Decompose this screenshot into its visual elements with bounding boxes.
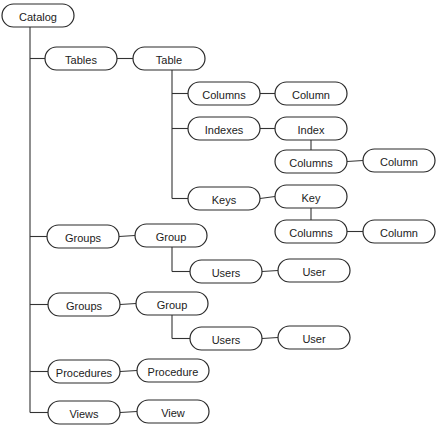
node-label: Procedures (56, 367, 113, 379)
node-label: Indexes (205, 124, 244, 136)
node-view: View (137, 400, 209, 423)
node-label: Group (157, 299, 188, 311)
node-index: Index (275, 117, 347, 140)
node-user1: User (278, 259, 350, 282)
node-procedures: Procedures (48, 360, 120, 383)
node-label: Keys (212, 194, 237, 206)
node-keys: Keys (188, 187, 260, 210)
node-tables: Tables (45, 47, 117, 70)
node-label: Columns (202, 89, 246, 101)
node-i-column: Column (363, 149, 435, 172)
node-label: Users (212, 267, 241, 279)
node-catalog: Catalog (2, 4, 74, 27)
node-table: Table (133, 47, 205, 70)
edge-groups1-group1 (119, 236, 135, 237)
node-users1: Users (190, 260, 262, 283)
node-label: Group (156, 231, 187, 243)
node-label: Views (69, 408, 99, 420)
node-label: Groups (66, 300, 103, 312)
node-k-columns: Columns (275, 220, 347, 243)
node-label: View (161, 407, 185, 419)
node-k-column: Column (363, 220, 435, 243)
node-group1: Group (135, 224, 207, 247)
edge-users2-user2 (262, 338, 278, 339)
node-label: Tables (65, 54, 97, 66)
node-label: Key (302, 192, 321, 204)
node-key: Key (275, 185, 347, 208)
node-label: Column (380, 156, 418, 168)
node-indexes: Indexes (188, 117, 260, 140)
catalog-tree-diagram: CatalogTablesTableColumnsColumnIndexesIn… (0, 0, 444, 429)
node-label: Table (156, 54, 182, 66)
node-label: Users (212, 334, 241, 346)
node-t-column: Column (275, 82, 347, 105)
node-views: Views (48, 401, 120, 424)
edge-groups2-group2 (120, 304, 136, 305)
node-groups1: Groups (47, 225, 119, 248)
edge-keys-key (260, 197, 275, 199)
node-procedure: Procedure (137, 359, 209, 382)
node-label: User (302, 266, 326, 278)
node-i-columns: Columns (275, 150, 347, 173)
node-label: Column (380, 227, 418, 239)
edge-views-view (120, 412, 137, 413)
node-label: Columns (289, 227, 333, 239)
node-label: User (302, 333, 326, 345)
node-t-columns: Columns (188, 82, 260, 105)
node-label: Columns (289, 157, 333, 169)
node-label: Groups (65, 232, 102, 244)
node-label: Column (292, 89, 330, 101)
edge-i_columns-i_column (347, 161, 363, 162)
edge-users1-user1 (262, 271, 278, 272)
node-label: Procedure (148, 366, 199, 378)
node-groups2: Groups (48, 293, 120, 316)
node-users2: Users (190, 327, 262, 350)
node-group2: Group (136, 292, 208, 315)
node-label: Catalog (19, 11, 57, 23)
nodes: CatalogTablesTableColumnsColumnIndexesIn… (2, 4, 435, 424)
node-label: Index (298, 124, 325, 136)
edge-procedures-procedure (120, 371, 137, 372)
node-user2: User (278, 326, 350, 349)
